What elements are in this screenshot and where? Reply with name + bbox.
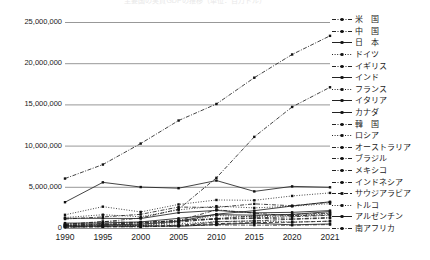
legend-item[interactable]: オーストラリア [332,142,430,154]
legend-marker-icon [332,130,352,141]
chart-legend: 米 国中 国日 本ドイツイギリスインドフランスイタリアカナダ韓 国ロシアオースト… [332,14,430,234]
data-point [215,224,217,226]
data-point [253,77,255,79]
legend-item[interactable]: ブラジル [332,153,430,165]
y-tick-label: 20,000,000 [4,59,62,67]
legend-item[interactable]: インドネシア [332,176,430,188]
legend-label: イタリア [355,95,387,106]
data-point [177,119,179,121]
legend-marker-icon [332,14,352,25]
legend-label: メキシコ [355,165,387,176]
legend-label: カナダ [355,107,379,118]
x-axis-labels: 19901995200020052010201520202021 [65,231,330,245]
legend-marker-icon [332,223,352,234]
x-tick-label: 2010 [196,231,236,243]
legend-label: イギリス [355,61,387,72]
data-point [215,218,217,220]
y-axis-labels: 25,000,00020,000,00015,000,00010,000,000… [0,22,62,228]
data-point [329,217,331,219]
data-point [140,221,142,223]
data-point [102,181,104,183]
y-tick-label: 15,000,000 [4,100,62,108]
legend-label: トルコ [355,200,379,211]
data-point [253,207,255,209]
data-point [329,214,331,216]
data-point [329,223,331,225]
legend-marker-icon [332,153,352,164]
data-point [177,187,179,189]
data-point [140,142,142,144]
data-point [291,106,293,108]
data-point [215,205,217,207]
data-point [64,177,66,179]
legend-item[interactable]: 日 本 [332,37,430,49]
data-point [291,224,293,226]
legend-marker-icon [332,119,352,130]
data-point [291,53,293,55]
data-point [102,226,104,228]
legend-marker-icon [332,211,352,222]
legend-label: オーストラリア [355,142,411,153]
data-point [177,209,179,211]
data-point [291,215,293,217]
data-point [253,220,255,222]
data-point [215,209,217,211]
x-tick-label: 2000 [121,231,161,243]
data-point [215,199,217,201]
data-point [291,185,293,187]
data-point [177,211,179,213]
chart-title: 主要国の実質GDPの推移（単位：百万ドル） [60,0,330,6]
legend-label: インド [355,72,379,83]
data-point [253,199,255,201]
data-point [291,211,293,213]
legend-marker-icon [332,49,352,60]
legend-marker-icon [332,84,352,95]
series-line [65,87,330,224]
legend-item[interactable]: フランス [332,84,430,96]
chart-root: 主要国の実質GDPの推移（単位：百万ドル） 25,000,00020,000,0… [0,0,430,260]
data-point [177,225,179,227]
legend-item[interactable]: イタリア [332,95,430,107]
data-point [253,136,255,138]
legend-item[interactable]: ドイツ [332,49,430,61]
legend-item[interactable]: カナダ [332,107,430,119]
legend-label: サウジアラビア [355,188,411,199]
legend-item[interactable]: サウジアラビア [332,188,430,200]
legend-label: 日 本 [355,37,379,48]
legend-item[interactable]: 米 国 [332,14,430,26]
legend-marker-icon [332,177,352,188]
x-tick-label: 1995 [83,231,123,243]
data-point [291,218,293,220]
legend-label: 米 国 [355,14,379,25]
x-tick-label: 2020 [272,231,312,243]
data-point [253,210,255,212]
data-point [102,205,104,207]
y-tick-label: 5,000,000 [4,183,62,191]
legend-item[interactable]: インド [332,72,430,84]
grid-and-series [65,22,330,228]
legend-item[interactable]: 韓 国 [332,118,430,130]
data-point [329,192,331,194]
legend-marker-icon [332,61,352,72]
data-point [177,220,179,222]
y-tick-label: 10,000,000 [4,142,62,150]
data-point [253,217,255,219]
legend-label: インドネシア [355,177,403,188]
data-point [177,203,179,205]
legend-item[interactable]: メキシコ [332,165,430,177]
legend-marker-icon [332,107,352,118]
legend-item[interactable]: 中 国 [332,26,430,38]
legend-item[interactable]: ロシア [332,130,430,142]
legend-marker-icon [332,165,352,176]
legend-item[interactable]: アルゼンチン [332,211,430,223]
legend-item[interactable]: イギリス [332,60,430,72]
legend-item[interactable]: トルコ [332,200,430,212]
data-point [215,103,217,105]
data-point [253,212,255,214]
y-tick-label: 25,000,000 [4,18,62,26]
data-point [140,213,142,215]
legend-item[interactable]: 南アフリカ [332,223,430,235]
data-point [140,226,142,228]
data-point [329,86,331,88]
data-point [102,214,104,216]
